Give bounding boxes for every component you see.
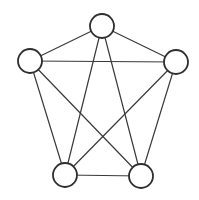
edge-top-bottom-right xyxy=(102,26,141,176)
edge-left-bottom-right xyxy=(30,61,141,176)
node-right xyxy=(164,50,188,74)
edge-left-right xyxy=(30,61,176,62)
node-top xyxy=(90,14,114,38)
nodes-group xyxy=(18,14,188,188)
edge-top-bottom-left xyxy=(65,26,102,175)
graph-diagram xyxy=(0,0,199,200)
edges-group xyxy=(30,26,176,176)
node-left xyxy=(18,49,42,73)
node-bottom-right xyxy=(129,164,153,188)
edge-left-bottom-left xyxy=(30,61,65,175)
edge-right-bottom-left xyxy=(65,62,176,175)
node-bottom-left xyxy=(53,163,77,187)
